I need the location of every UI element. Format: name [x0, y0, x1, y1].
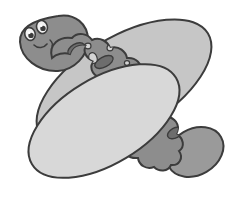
- illustration-canvas: [0, 0, 242, 198]
- hot-dog-illustration: [0, 0, 242, 198]
- right-eye-highlight: [40, 24, 43, 27]
- spot-light: [179, 118, 187, 127]
- left-eye-highlight: [28, 31, 31, 34]
